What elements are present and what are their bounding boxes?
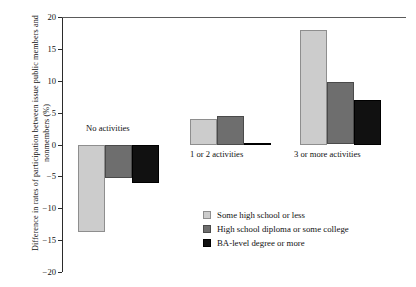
black-swatch	[203, 239, 211, 247]
bar	[105, 145, 132, 178]
bar	[132, 145, 159, 183]
y-axis-tick-label: 5	[52, 108, 56, 118]
legend-item: BA-level degree or more	[203, 236, 349, 250]
y-axis-tick-label: 15	[47, 44, 56, 54]
legend-item-label: High school diploma or some college	[217, 224, 349, 234]
zero-baseline	[62, 17, 406, 18]
legend-item: Some high school or less	[203, 208, 349, 222]
y-axis-tick	[58, 145, 62, 146]
y-axis-tick-label: 0	[52, 140, 56, 150]
y-axis-tick-label: 10	[47, 76, 56, 86]
y-axis-tick	[58, 240, 62, 241]
group-label-one-or-two: 1 or 2 activities	[190, 149, 243, 159]
y-axis-tick-label: −10	[43, 203, 56, 213]
mid-gray-swatch	[203, 225, 211, 233]
legend: Some high school or less High school dip…	[203, 208, 349, 250]
bar	[244, 143, 271, 145]
group-label-three-or-more: 3 or more activities	[294, 149, 361, 159]
bar	[217, 116, 244, 145]
legend-item: High school diploma or some college	[203, 222, 349, 236]
legend-item-label: Some high school or less	[217, 210, 305, 220]
y-axis-tick-label: 20	[47, 12, 56, 22]
y-axis-tick-label: −5	[47, 171, 56, 181]
group-label-no-activities: No activities	[86, 123, 130, 133]
y-axis-tick	[58, 49, 62, 50]
y-axis-tick	[58, 113, 62, 114]
y-axis-tick-label: −15	[43, 235, 56, 245]
bar-chart: Difference in rates of participation bet…	[0, 0, 416, 287]
y-axis-tick-label: −20	[43, 267, 56, 277]
y-axis-tick	[58, 81, 62, 82]
bar	[300, 30, 327, 145]
bar	[78, 145, 105, 232]
y-axis-tick	[58, 208, 62, 209]
light-gray-swatch	[203, 211, 211, 219]
y-axis-tick	[58, 176, 62, 177]
bar	[190, 119, 217, 145]
legend-item-label: BA-level degree or more	[217, 238, 305, 248]
y-axis-line	[62, 17, 63, 272]
bar	[327, 82, 354, 144]
y-axis-tick	[58, 272, 62, 273]
bar	[354, 100, 381, 145]
